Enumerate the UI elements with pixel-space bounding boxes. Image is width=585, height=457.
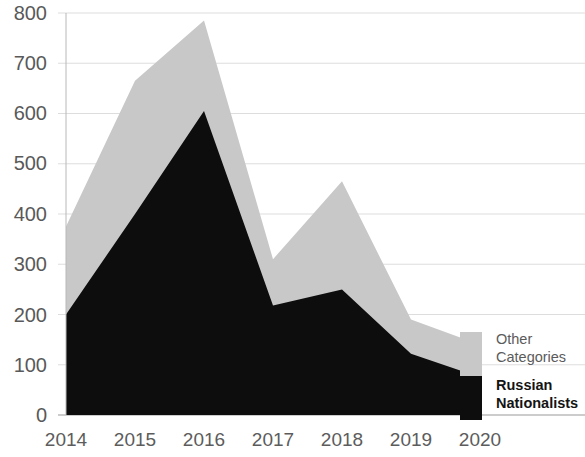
x-tick-label: 2017 [252, 430, 294, 449]
legend-swatch-russian-nationalists [460, 376, 482, 420]
x-tick-label: 2015 [114, 430, 156, 449]
legend-label-other-categories: Other Categories [496, 330, 566, 366]
x-axis: 2014 2015 2016 2017 2018 2019 2020 [0, 430, 585, 457]
area-series-group [66, 21, 480, 415]
legend-label-line1: Other [496, 330, 566, 348]
x-tick-label: 2019 [390, 430, 432, 449]
x-tick-label: 2018 [321, 430, 363, 449]
x-tick-label: 2020 [459, 430, 501, 449]
legend-label-line1: Russian [496, 376, 578, 394]
legend-label-line2: Categories [496, 348, 566, 366]
x-tick-label: 2016 [183, 430, 225, 449]
legend-label-russian-nationalists: Russian Nationalists [496, 376, 578, 412]
legend-swatch-other-categories [460, 332, 482, 376]
x-tick-label: 2014 [45, 430, 87, 449]
stacked-area-chart: 800 700 600 500 400 300 200 100 0 2014 2… [0, 0, 585, 457]
legend-label-line2: Nationalists [496, 394, 578, 412]
